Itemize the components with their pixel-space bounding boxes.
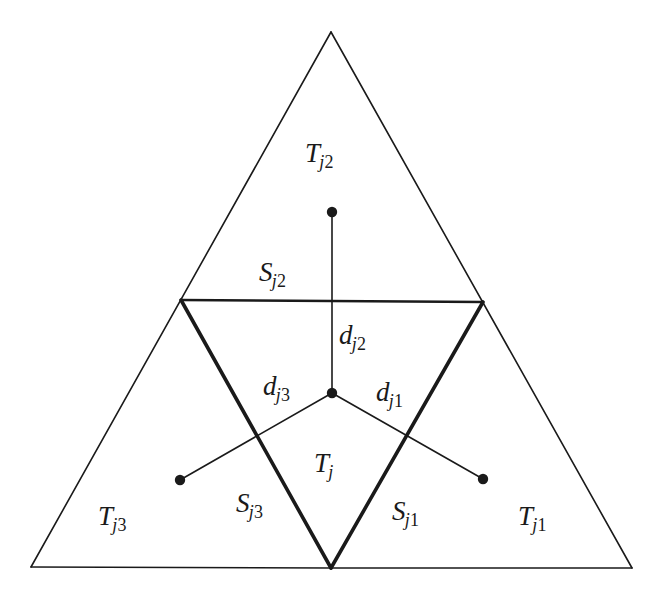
label-edge-top-base: S	[259, 257, 273, 287]
distance-segment-right	[332, 393, 483, 479]
label-edge-top: Sj2	[259, 259, 287, 286]
label-region-center: Tj	[314, 450, 335, 477]
distance-connectors-group	[180, 212, 483, 480]
label-region-bottom-right: Tj1	[518, 503, 548, 530]
outer-edge-bottom-left-span	[31, 567, 331, 568]
label-edge-left: Sj3	[236, 490, 264, 517]
node-right	[478, 474, 488, 484]
label-region-top-subscript: j2	[319, 152, 334, 172]
label-region-bottom-right-base: T	[518, 501, 533, 531]
label-region-bottom-left-subscript: j3	[112, 515, 127, 535]
label-edge-right-base: S	[392, 496, 406, 526]
label-edge-right: Sj1	[392, 498, 420, 525]
label-distance-left-base: d	[263, 371, 277, 401]
label-region-top: Tj2	[305, 140, 335, 167]
label-distance-top-base: d	[339, 320, 353, 350]
label-distance-right-subscript: j1	[389, 391, 404, 411]
label-region-center-base: T	[314, 448, 329, 478]
label-distance-left: dj3	[263, 373, 291, 400]
label-edge-top-subscript: j2	[272, 271, 287, 291]
figure-canvas: Tj Tj2 Tj3 Tj1 Sj2 Sj3 Sj1 dj2 dj3 dj1	[0, 0, 661, 601]
label-distance-right: dj1	[376, 379, 404, 406]
label-edge-right-subscript: j1	[405, 510, 420, 530]
node-top	[327, 207, 337, 217]
label-distance-top: dj2	[339, 322, 367, 349]
label-distance-right-base: d	[376, 377, 390, 407]
label-region-bottom-right-subscript: j1	[532, 515, 547, 535]
label-region-top-base: T	[305, 138, 320, 168]
label-region-bottom-left-base: T	[98, 501, 113, 531]
node-left	[175, 475, 185, 485]
node-center	[327, 388, 337, 398]
label-edge-left-base: S	[236, 488, 250, 518]
label-region-bottom-left: Tj3	[98, 503, 128, 530]
label-distance-left-subscript: j3	[276, 385, 291, 405]
distance-segment-left	[180, 393, 332, 480]
label-edge-left-subscript: j3	[249, 502, 264, 522]
label-region-center-subscript: j	[328, 462, 333, 482]
interface-edge-left	[181, 300, 331, 568]
label-distance-top-subscript: j2	[352, 334, 367, 354]
